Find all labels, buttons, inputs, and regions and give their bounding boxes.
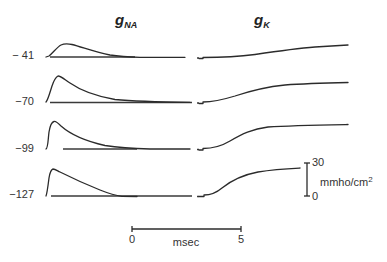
gna-trace-127 [46,169,199,197]
row-label-127: −127 [9,188,34,200]
gna-trace-70 [46,76,199,103]
gk-trace-70 [199,83,348,104]
time-scale-bar: 0 5 msec [129,226,244,248]
scale-top-label: 30 [312,156,324,168]
row-label-99: −99 [15,142,34,154]
time-start-label: 0 [129,233,135,245]
time-end-label: 5 [238,233,244,245]
gk-trace-41 [199,45,348,59]
conductance-scale-bar: 30 0 mmho/cm2 [304,156,373,202]
scale-bottom-label: 0 [312,190,318,202]
row-label-41: − 41 [12,49,34,61]
conductance-figure: gNA gK − 41 −70 −99 −127 [0,0,387,262]
scale-unit-label: mmho/cm2 [320,175,373,188]
row-label-70: −70 [15,95,34,107]
gk-panel-title: gK [253,11,271,30]
gk-trace-127 [199,168,300,197]
gna-trace-99 [46,121,199,149]
gk-trace-99 [199,125,348,151]
time-unit-label: msec [173,236,200,248]
gna-panel-title: gNA [114,11,137,30]
gna-trace-41 [46,44,199,58]
